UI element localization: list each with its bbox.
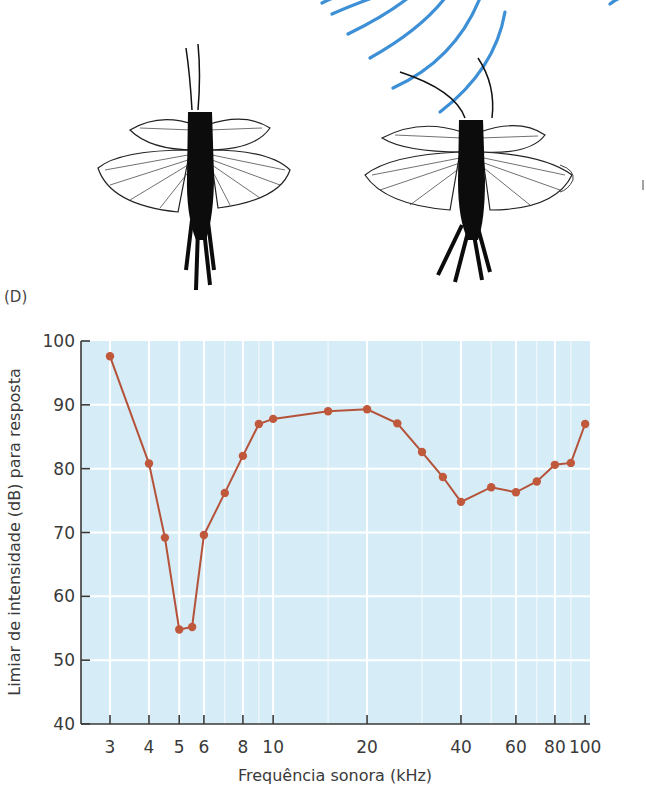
y-tick-label: 50 <box>53 650 75 670</box>
y-tick-label: 60 <box>53 586 75 606</box>
data-point <box>551 461 559 469</box>
y-axis-title: Limiar de intensidade (dB) para resposta <box>5 368 24 696</box>
data-point <box>567 459 575 467</box>
data-point <box>581 420 589 428</box>
data-point <box>175 625 183 633</box>
x-tick-label: 6 <box>199 737 210 757</box>
data-point <box>188 623 196 631</box>
data-point <box>487 483 495 491</box>
x-tick-label: 8 <box>237 737 248 757</box>
data-point <box>512 488 520 496</box>
x-tick-label: 60 <box>505 737 527 757</box>
x-tick-label: 80 <box>544 737 566 757</box>
data-point <box>439 473 447 481</box>
x-tick-label: 20 <box>356 737 378 757</box>
x-tick-label: 4 <box>144 737 155 757</box>
y-tick-label: 100 <box>43 331 75 351</box>
data-point <box>418 448 426 456</box>
panel-label: (D) <box>4 288 27 306</box>
x-tick-label: 40 <box>450 737 472 757</box>
data-point <box>106 352 114 360</box>
y-tick-label: 80 <box>53 459 75 479</box>
x-tick-label: 5 <box>174 737 185 757</box>
data-point <box>145 459 153 467</box>
data-point <box>457 498 465 506</box>
x-tick-label: 100 <box>569 737 601 757</box>
sound-wave-icon <box>322 0 620 112</box>
insect-right-icon <box>365 58 572 282</box>
insect-left-icon <box>98 44 290 290</box>
x-axis-title: Frequência sonora (kHz) <box>238 766 432 785</box>
y-tick-label: 70 <box>53 523 75 543</box>
y-tick-label: 90 <box>53 395 75 415</box>
data-point <box>533 477 541 485</box>
x-tick-label: 10 <box>262 737 284 757</box>
data-point <box>200 531 208 539</box>
y-tick-label: 40 <box>53 714 75 734</box>
data-point <box>161 533 169 541</box>
data-point <box>393 419 401 427</box>
data-point <box>269 415 277 423</box>
data-point <box>324 407 332 415</box>
data-point <box>255 420 263 428</box>
partial-figure-edge <box>560 165 643 192</box>
data-point <box>363 405 371 413</box>
threshold-chart: 405060708090100345681020406080100 Frequê… <box>0 320 646 796</box>
insect-illustration <box>0 0 646 300</box>
x-tick-label: 3 <box>105 737 116 757</box>
data-point <box>221 489 229 497</box>
data-point <box>239 452 247 460</box>
